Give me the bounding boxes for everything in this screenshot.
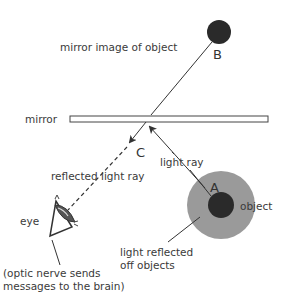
label-eye: eye [20, 215, 39, 227]
reflected-ray-solid [130, 122, 146, 142]
label-mirror: mirror [25, 113, 57, 125]
mirror-image-circle [207, 20, 231, 44]
label-point-b: B [213, 48, 222, 62]
mirror [70, 116, 268, 122]
label-light-ray: light ray [160, 156, 204, 168]
label-optic-nerve-1: (optic nerve sends [3, 267, 101, 279]
light-ray-pointer [172, 152, 174, 154]
label-object: object [240, 200, 272, 212]
label-light-reflected-2: off objects [120, 259, 175, 271]
label-reflected-ray: reflected light ray [51, 170, 145, 182]
label-mirror-image: mirror image of object [60, 41, 177, 53]
object-core [208, 192, 234, 218]
eye-icon [50, 195, 78, 236]
optic-nerve-pointer [52, 240, 60, 265]
label-optic-nerve-2: messages to the brain) [3, 280, 125, 292]
light-reflected-pointer [168, 217, 200, 242]
label-light-reflected-1: light reflected [120, 246, 193, 258]
label-point-a: A [210, 181, 219, 195]
label-point-c: C [136, 146, 145, 160]
